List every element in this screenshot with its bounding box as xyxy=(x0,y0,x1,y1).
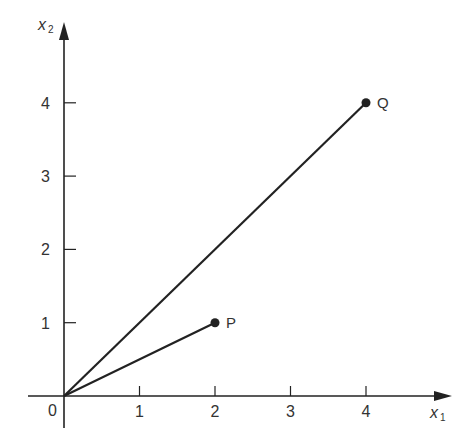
x-axis-arrow-icon xyxy=(434,391,452,401)
x-tick-label: 3 xyxy=(286,403,295,420)
x-tick-label: 2 xyxy=(211,403,220,420)
point-p-dot xyxy=(211,318,220,327)
y-tick-label: 4 xyxy=(41,95,50,112)
point-p-label: P xyxy=(226,314,236,331)
vector-op xyxy=(64,323,215,396)
y-tick-label: 3 xyxy=(41,168,50,185)
vector-oq xyxy=(64,103,366,396)
x-axis-label-sub: 1 xyxy=(440,412,446,423)
y-axis-arrow-icon xyxy=(59,22,69,40)
point-q-label: Q xyxy=(377,94,389,111)
y-tick-label: 2 xyxy=(41,241,50,258)
point-q-dot xyxy=(362,98,371,107)
x-axis-label: x1 xyxy=(429,404,446,423)
x-tick-label: 1 xyxy=(135,403,144,420)
vector-chart: 12341234 PQ x1 x2 0 xyxy=(0,0,472,441)
y-axis-label-sub: 2 xyxy=(48,24,54,35)
y-tick-label: 1 xyxy=(41,315,50,332)
data-points: PQ xyxy=(211,94,389,331)
vector-lines xyxy=(64,103,366,396)
x-tick-label: 4 xyxy=(362,403,371,420)
y-axis-label: x2 xyxy=(37,16,54,35)
origin-label: 0 xyxy=(48,402,57,419)
